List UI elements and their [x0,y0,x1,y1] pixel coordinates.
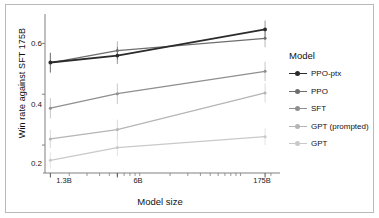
legend-item-label: SFT [311,104,326,113]
legend-item-gpt[interactable]: GPT [289,136,375,151]
legend-item-ppo[interactable]: PPO [289,84,375,99]
legend-item-label: PPO [311,87,328,96]
chart-figure: Win rate against SFT 175B Model size 0.6… [0,0,379,218]
y-tick-label-0.2: 0.2 [20,159,42,168]
legend-item-gpt-prompted[interactable]: GPT (prompted) [289,119,375,134]
legend-marker-icon [289,104,307,114]
x-axis-label: Model size [45,196,275,207]
legend-item-ppo-ptx[interactable]: PPO-ptx [289,66,375,81]
legend-item-label: GPT (prompted) [311,122,369,131]
chart-legend: Model PPO-ptx PPO SFT GPT (prompted) GPT [289,50,375,154]
legend-title: Model [289,50,375,61]
legend-marker-icon [289,86,307,96]
legend-marker-icon [289,139,307,149]
legend-marker-icon [289,121,307,131]
legend-item-label: PPO-ptx [311,69,341,78]
x-tick-label-175B: 175B [253,176,271,185]
x-tick-label-6B: 6B [133,176,142,185]
legend-marker-icon [289,69,307,79]
y-tick-label-0.4: 0.4 [20,100,42,109]
legend-item-sft[interactable]: SFT [289,101,375,116]
y-tick-label-0.6: 0.6 [20,39,42,48]
y-axis-label: Win rate against SFT 175B [17,3,27,163]
x-tick-label-1.3B: 1.3B [56,176,71,185]
legend-item-label: GPT [311,139,327,148]
plot-panel: Win rate against SFT 175B Model size 0.6… [0,0,379,218]
